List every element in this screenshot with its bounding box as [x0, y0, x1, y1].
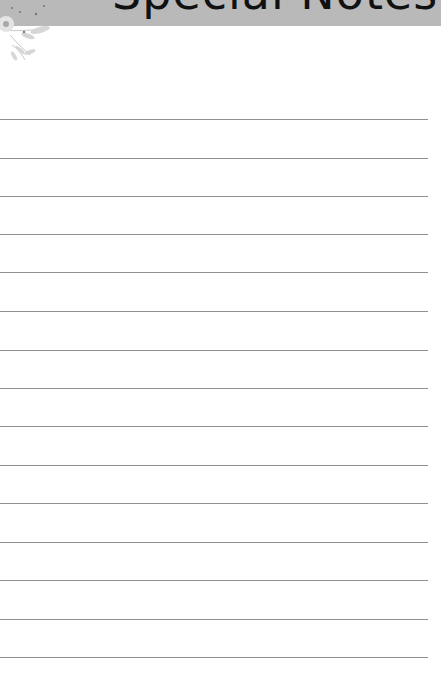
- ruled-line: [0, 542, 428, 543]
- ruled-line: [0, 196, 428, 197]
- ruled-line: [0, 657, 428, 658]
- ruled-line: [0, 234, 428, 235]
- ruled-line: [0, 272, 428, 273]
- ruled-line: [0, 619, 428, 620]
- ruled-line: [0, 388, 428, 389]
- ruled-line: [0, 350, 428, 351]
- ruled-line: [0, 119, 428, 120]
- page-title: Special Notes: [112, 0, 438, 16]
- ruled-line: [0, 311, 428, 312]
- ruled-line: [0, 580, 428, 581]
- ruled-line: [0, 158, 428, 159]
- ruled-line: [0, 465, 428, 466]
- header-band: Special Notes: [0, 0, 441, 26]
- floral-corner-icon: [0, 0, 60, 62]
- ruled-line: [0, 503, 428, 504]
- ruled-line: [0, 426, 428, 427]
